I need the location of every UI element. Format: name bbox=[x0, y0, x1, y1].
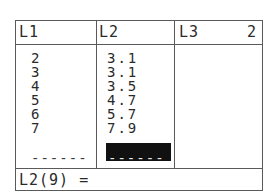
header-L3[interactable]: L3 bbox=[179, 24, 199, 41]
list-L2-cell[interactable]: 4.7 bbox=[107, 93, 138, 107]
list-L2-cell[interactable]: 5.7 bbox=[107, 107, 138, 121]
column-divider-1 bbox=[96, 21, 97, 169]
list-L2-cell[interactable]: 3.1 bbox=[107, 51, 138, 65]
entry-line-divider bbox=[16, 168, 262, 169]
column-divider-2 bbox=[174, 21, 175, 169]
list-L2-cell[interactable]: 3.5 bbox=[107, 79, 138, 93]
list-L2-cursor-cell[interactable]: ------ bbox=[106, 143, 171, 161]
list-L1-column: 2 3 4 5 6 7 bbox=[31, 51, 41, 135]
list-L1-cell[interactable]: 3 bbox=[31, 65, 41, 79]
list-header-row: L1 L2 L3 2 bbox=[16, 21, 262, 45]
list-L1-cell[interactable]: 5 bbox=[31, 93, 41, 107]
list-L1-cell[interactable]: 7 bbox=[31, 121, 41, 135]
entry-line[interactable]: L2(9) = bbox=[19, 172, 89, 189]
list-L2-cell[interactable]: 3.1 bbox=[107, 65, 138, 79]
list-L1-cell[interactable]: 4 bbox=[31, 79, 41, 93]
header-L2[interactable]: L2 bbox=[99, 24, 119, 41]
list-L1-end-marker[interactable]: ------ bbox=[31, 151, 88, 165]
header-L1[interactable]: L1 bbox=[19, 24, 39, 41]
list-L2-end-marker: ------ bbox=[108, 151, 165, 161]
list-L1-cell[interactable]: 2 bbox=[31, 51, 41, 65]
column-index-indicator: 2 bbox=[247, 24, 256, 41]
list-L1-cell[interactable]: 6 bbox=[31, 107, 41, 121]
list-L2-column: 3.1 3.1 3.5 4.7 5.7 7.9 bbox=[107, 51, 138, 135]
list-L2-cell[interactable]: 7.9 bbox=[107, 121, 138, 135]
list-editor-screen: L1 L2 L3 2 2 3 4 5 6 7 ------ 3.1 3.1 3.… bbox=[15, 20, 263, 191]
